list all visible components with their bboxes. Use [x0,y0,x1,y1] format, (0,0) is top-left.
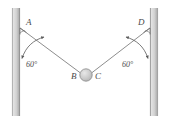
label-angle-right: 60° [122,60,134,69]
label-point-d: D [137,17,145,27]
left-wall [12,8,20,116]
suspended-ball [80,69,92,81]
label-angle-left: 60° [26,60,38,69]
angle-arc-right [126,37,148,59]
angle-vertex-marker-right [144,28,151,35]
angle-arc-left [22,37,44,59]
cord-right-dc [92,28,151,73]
label-point-b: B [71,71,77,81]
angle-vertex-marker-left [20,28,27,35]
label-point-a: A [25,17,32,27]
label-point-c: C [95,71,102,81]
right-wall [150,8,158,116]
diagram-svg: A D B C 60° 60° [0,0,169,124]
physics-diagram-canvas: A D B C 60° 60° [0,0,169,124]
